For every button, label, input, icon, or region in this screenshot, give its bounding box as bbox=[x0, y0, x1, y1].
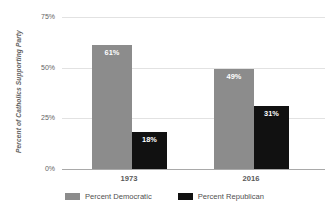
y-axis-title: Percent of Catholics Supporting Party bbox=[15, 12, 22, 172]
legend-label-republican: Percent Republican bbox=[198, 192, 264, 201]
legend-item-democratic[interactable]: Percent Democratic bbox=[65, 192, 152, 201]
bar-value-1973-democratic: 61% bbox=[92, 48, 132, 57]
bar-2016-democratic[interactable]: 49% bbox=[214, 69, 254, 169]
y-tick-label-25: 25% bbox=[41, 115, 55, 122]
bar-1973-democratic[interactable]: 61% bbox=[92, 45, 132, 169]
y-tick-label-50: 50% bbox=[41, 64, 55, 71]
chart-legend: Percent Democratic Percent Republican bbox=[0, 192, 329, 201]
bar-value-2016-republican: 31% bbox=[254, 109, 289, 118]
legend-label-democratic: Percent Democratic bbox=[85, 192, 152, 201]
legend-swatch-republican-icon bbox=[178, 193, 193, 200]
legend-item-republican[interactable]: Percent Republican bbox=[178, 192, 264, 201]
y-tick-label-0: 0% bbox=[45, 165, 55, 172]
bar-value-2016-democratic: 49% bbox=[214, 72, 254, 81]
bar-1973-republican[interactable]: 18% bbox=[132, 132, 167, 169]
bar-chart: Percent of Catholics Supporting Party 75… bbox=[0, 0, 329, 219]
legend-swatch-democratic-icon bbox=[65, 193, 80, 200]
x-tick-label-1973: 1973 bbox=[121, 174, 138, 183]
bar-value-1973-republican: 18% bbox=[132, 135, 167, 144]
y-tick-label-75: 75% bbox=[41, 13, 55, 20]
x-axis-baseline: 0% bbox=[62, 169, 325, 170]
bar-2016-republican[interactable]: 31% bbox=[254, 106, 289, 169]
gridline-75: 75% bbox=[62, 17, 325, 18]
plot-area: 75% 50% 25% 0% 61% 18% 1973 49% 31% 2016 bbox=[62, 17, 325, 170]
x-tick-label-2016: 2016 bbox=[243, 174, 260, 183]
